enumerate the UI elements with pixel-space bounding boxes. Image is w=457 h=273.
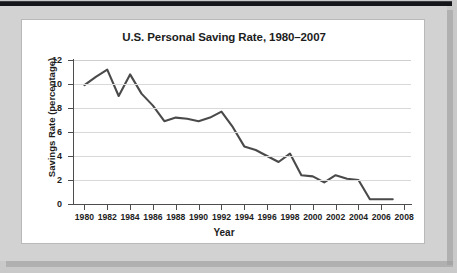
panel-shadow-bottom [6, 261, 453, 267]
x-axis-tick [290, 205, 291, 210]
y-axis-tick-label: 0 [34, 199, 62, 209]
gridline [73, 156, 411, 157]
x-axis-tick [381, 205, 382, 210]
x-axis-tick [199, 205, 200, 210]
y-axis-tick [68, 60, 73, 61]
y-axis-tick-label: 8 [34, 103, 62, 113]
x-axis-tick [130, 205, 131, 210]
x-axis-tick-label: 2008 [387, 212, 421, 222]
x-axis-tick [313, 205, 314, 210]
x-axis-tick [244, 205, 245, 210]
x-axis-title: Year [22, 227, 426, 238]
x-axis-tick [153, 205, 154, 210]
gridline [73, 84, 411, 85]
x-axis-tick [404, 205, 405, 210]
y-axis-tick-label: 4 [34, 151, 62, 161]
x-axis-tick [84, 205, 85, 210]
y-axis-tick [68, 156, 73, 157]
gridline [73, 180, 411, 181]
x-axis-tick [336, 205, 337, 210]
plot-area [73, 60, 411, 204]
y-axis-tick-labels: 024681012 [32, 60, 62, 204]
gridline [73, 108, 411, 109]
top-dark-bar-highlight [0, 1, 452, 2]
x-axis-line [73, 204, 412, 205]
y-axis-tick [68, 180, 73, 181]
y-axis-tick [68, 108, 73, 109]
chart-figure: U.S. Personal Saving Rate, 1980–2007 Sav… [21, 19, 425, 244]
gridline [73, 132, 411, 133]
y-axis-tick-label: 6 [34, 127, 62, 137]
y-axis-tick [68, 84, 73, 85]
x-axis-tick [358, 205, 359, 210]
y-axis-tick [68, 204, 73, 205]
panel-shadow-right [447, 10, 453, 265]
y-axis-line [73, 59, 74, 205]
x-axis-tick [221, 205, 222, 210]
gridline [73, 60, 411, 61]
screenshot-scene: U.S. Personal Saving Rate, 1980–2007 Sav… [0, 0, 457, 273]
y-axis-tick-label: 10 [34, 79, 62, 89]
x-axis-tick [176, 205, 177, 210]
chart-title: U.S. Personal Saving Rate, 1980–2007 [22, 31, 426, 43]
y-axis-tick-label: 12 [34, 55, 62, 65]
y-axis-tick [68, 132, 73, 133]
x-axis-tick [107, 205, 108, 210]
y-axis-tick-label: 2 [34, 175, 62, 185]
x-axis-tick [267, 205, 268, 210]
